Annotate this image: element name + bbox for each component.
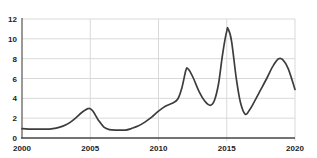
y-tick-label: 6 bbox=[13, 75, 18, 84]
line-chart-panel: 02468101220002005201020152020 bbox=[0, 0, 317, 158]
x-tick-label: 2000 bbox=[13, 144, 31, 153]
x-tick-label: 2020 bbox=[286, 144, 304, 153]
x-tick-label: 2010 bbox=[150, 144, 168, 153]
y-tick-label: 4 bbox=[13, 94, 18, 103]
y-tick-label: 10 bbox=[8, 35, 17, 44]
y-tick-label: 2 bbox=[13, 114, 18, 123]
y-tick-label: 8 bbox=[13, 55, 18, 64]
y-tick-label: 12 bbox=[8, 15, 17, 24]
y-tick-label: 0 bbox=[13, 134, 18, 143]
x-tick-label: 2015 bbox=[218, 144, 236, 153]
x-tick-label: 2005 bbox=[81, 144, 99, 153]
line-chart: 02468101220002005201020152020 bbox=[0, 0, 317, 158]
